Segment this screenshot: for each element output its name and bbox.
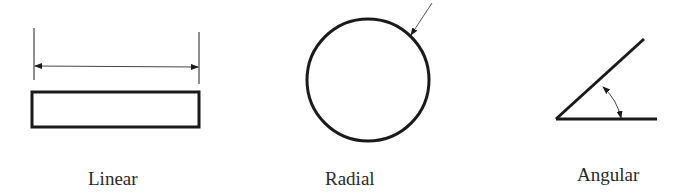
angular-dimension-icon [556, 39, 657, 119]
radial-leader-arrow [411, 3, 432, 35]
linear-label: Linear [88, 168, 138, 190]
angle-diagonal-line [556, 39, 644, 119]
dimension-line [35, 66, 198, 67]
linear-dimension-icon [32, 28, 199, 127]
radial-label: Radial [325, 168, 375, 190]
angular-label: Angular [577, 164, 639, 186]
radial-circle [307, 19, 429, 141]
angle-arc [603, 87, 621, 118]
radial-dimension-icon [307, 3, 432, 141]
linear-rectangle [32, 92, 199, 127]
